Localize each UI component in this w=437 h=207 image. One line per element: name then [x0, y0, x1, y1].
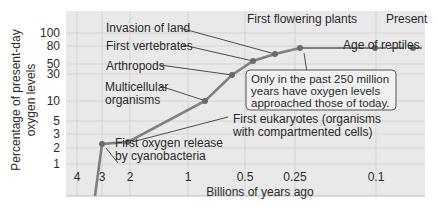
x-axis-label: Billions of years ago [206, 185, 314, 199]
data-point [250, 58, 256, 64]
y-tick: 3 [53, 127, 60, 141]
data-point [229, 72, 235, 78]
x-tick: 1 [185, 170, 192, 184]
x-tick: 0.5 [237, 170, 254, 184]
callout-line-3: approached those of today. [251, 97, 390, 109]
y-tick: 5 [53, 114, 60, 128]
x-tick: 0.1 [368, 170, 385, 184]
annotation-multicellular-2: organisms [105, 93, 160, 107]
y-tick: 80 [47, 39, 61, 53]
y-tick: 10 [47, 94, 61, 108]
annotation-present: Present [386, 12, 428, 26]
annotation-first-eukaryotes-2: with compartmented cells) [232, 125, 372, 139]
y-tick-labels: 100 80 50 30 10 5 3 2 1 [40, 26, 60, 171]
y-axis-label-line1: Percentage of present-day [9, 29, 23, 170]
data-point [297, 45, 303, 51]
annotation-first-flowering-plants: First flowering plants [247, 12, 357, 26]
x-tick: 3 [99, 170, 106, 184]
annotation-first-oxygen-2: by cyanobacteria [115, 149, 206, 163]
y-tick: 30 [47, 67, 61, 81]
y-tick: 100 [40, 26, 60, 40]
annotation-first-vertebrates: First vertebrates [106, 39, 193, 53]
callout-box: Only in the past 250 million years have … [246, 70, 396, 110]
data-point [99, 141, 105, 147]
y-tick: 2 [53, 141, 60, 155]
annotation-first-eukaryotes-1: First eukaryotes (organisms [233, 112, 381, 126]
data-point [272, 51, 278, 57]
y-tick: 1 [53, 157, 60, 171]
x-tick: 0.25 [283, 170, 307, 184]
y-axis-label-line2: oxygen levels [24, 64, 38, 137]
oxygen-chart: 100 80 50 30 10 5 3 2 1 4 3 2 1 0.5 0.25… [0, 0, 437, 207]
annotation-invasion-of-land: Invasion of land [106, 21, 190, 35]
annotation-arthropods: Arthropods [106, 59, 165, 73]
x-tick: 4 [74, 170, 81, 184]
data-point [202, 98, 208, 104]
callout-line-2: years have oxygen levels [251, 85, 380, 97]
annotation-multicellular-1: Multicellular [105, 80, 168, 94]
callout-line-1: Only in the past 250 million [251, 73, 389, 85]
y-axis-label: Percentage of present-day oxygen levels [9, 29, 38, 170]
x-tick: 2 [127, 170, 134, 184]
annotation-age-of-reptiles: Age of reptiles [343, 38, 420, 52]
annotation-first-oxygen-1: First oxygen release [115, 136, 223, 150]
